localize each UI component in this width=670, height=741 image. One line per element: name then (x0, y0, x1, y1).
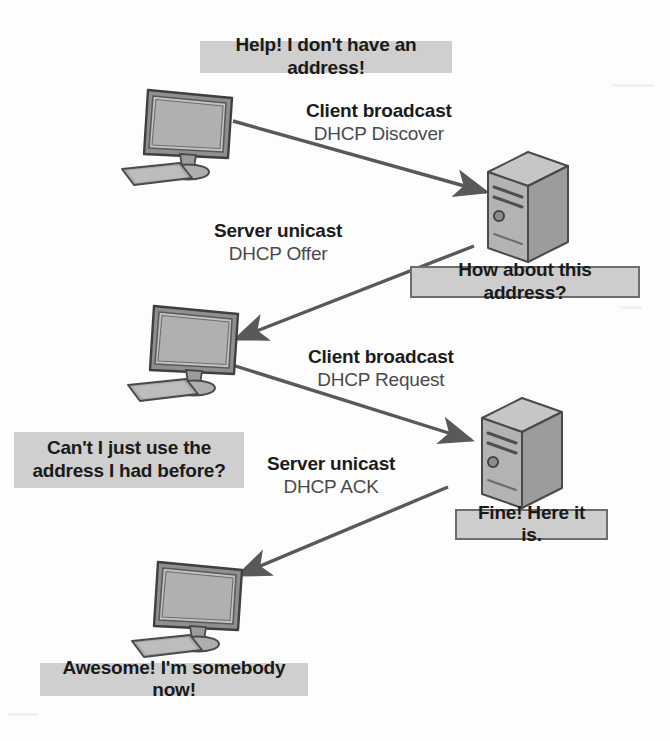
callout-server-fine-here-it-is-text: Fine! Here it is. (467, 502, 596, 546)
label-dhcp-request-direction: Client broadcast (308, 345, 454, 368)
callout-server-fine-here-it-is: Fine! Here it is. (455, 509, 608, 540)
scan-artifact (8, 713, 38, 716)
server-tower-icon (482, 398, 562, 508)
label-dhcp-offer: Server unicast DHCP Offer (214, 219, 342, 265)
callout-server-offer-address-text: How about this address? (422, 259, 628, 303)
keyboard-icon (132, 635, 202, 657)
callout-client-no-address: Help! I don't have an address! (200, 41, 452, 73)
scan-artifact (612, 84, 654, 87)
label-dhcp-discover-packet: DHCP Discover (306, 122, 452, 145)
device-client-computer-1 (118, 84, 242, 196)
dhcp-diagram-canvas: Help! I don't have an address! How about… (0, 0, 670, 741)
device-client-computer-3 (128, 556, 252, 668)
label-dhcp-ack: Server unicast DHCP ACK (267, 452, 395, 498)
callout-client-awesome: Awesome! I'm somebody now! (40, 663, 308, 696)
label-dhcp-request-packet: DHCP Request (308, 368, 454, 391)
device-client-computer-2 (124, 300, 248, 412)
callout-client-awesome-text: Awesome! I'm somebody now! (50, 657, 298, 701)
label-dhcp-discover: Client broadcast DHCP Discover (306, 99, 452, 145)
scan-artifact (620, 306, 642, 309)
label-dhcp-offer-direction: Server unicast (214, 219, 342, 242)
label-dhcp-ack-direction: Server unicast (267, 452, 395, 475)
callout-client-reuse-address: Can't I just use the address I had befor… (14, 432, 244, 488)
callout-client-reuse-address-line-2: address I had before? (24, 460, 234, 482)
callout-server-offer-address: How about this address? (410, 266, 640, 298)
keyboard-icon (128, 379, 198, 401)
device-server-1 (472, 146, 576, 272)
label-dhcp-offer-packet: DHCP Offer (214, 242, 342, 265)
label-dhcp-request: Client broadcast DHCP Request (308, 345, 454, 391)
arrow-dhcp-ack (239, 487, 448, 575)
callout-client-reuse-address-line-1: Can't I just use the (24, 437, 234, 459)
keyboard-icon (122, 163, 192, 185)
server-tower-icon (488, 152, 568, 262)
label-dhcp-discover-direction: Client broadcast (306, 99, 452, 122)
callout-client-no-address-text: Help! I don't have an address! (210, 34, 442, 78)
device-server-2 (466, 392, 570, 518)
label-dhcp-ack-packet: DHCP ACK (267, 475, 395, 498)
